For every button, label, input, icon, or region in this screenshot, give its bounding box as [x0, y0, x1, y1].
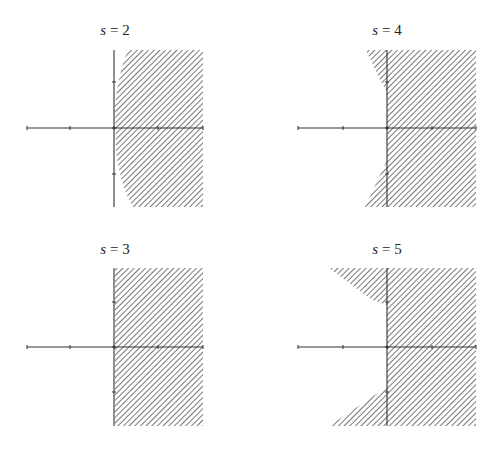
plot-s3	[27, 268, 203, 426]
stability-region-plots	[0, 0, 503, 451]
plot-s5	[298, 268, 476, 426]
plot-s4	[298, 50, 476, 207]
plot-s2	[27, 50, 203, 207]
